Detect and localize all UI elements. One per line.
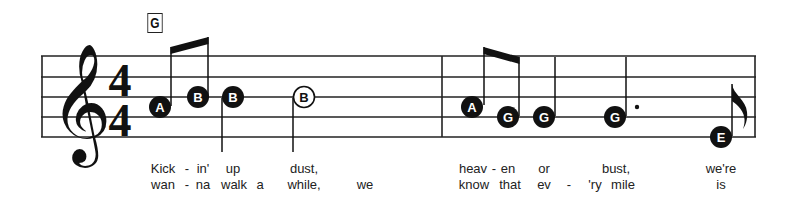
lyric-syllable: while, bbox=[287, 177, 320, 192]
lyric-syllable: that bbox=[499, 177, 521, 192]
lyric-syllable: mile bbox=[611, 177, 635, 192]
svg-text:G: G bbox=[610, 110, 620, 125]
lyric-syllable: we bbox=[357, 177, 374, 192]
treble-clef-icon: 𝄞 bbox=[50, 41, 111, 168]
lyric-syllable: na bbox=[196, 177, 210, 192]
svg-text:G: G bbox=[503, 110, 513, 125]
note-B-half: B bbox=[294, 87, 315, 108]
lyric-hyphen: - bbox=[185, 161, 189, 176]
staff bbox=[41, 56, 756, 137]
lyric-syllable: 'ry bbox=[588, 177, 601, 192]
lyric-syllable: is bbox=[716, 177, 725, 192]
lyric-syllable: bust, bbox=[602, 161, 630, 176]
lyric-syllable: Kick bbox=[151, 161, 176, 176]
note-E: E bbox=[710, 126, 732, 148]
lyric-syllable: we're bbox=[706, 161, 737, 176]
lyric-syllable: walk bbox=[221, 177, 247, 192]
lyric-syllable: en bbox=[501, 161, 515, 176]
note-G: G bbox=[533, 106, 555, 128]
note-A: A bbox=[149, 96, 171, 118]
lyric-syllable: dust, bbox=[290, 161, 318, 176]
note-A: A bbox=[461, 96, 483, 118]
dot bbox=[635, 105, 639, 109]
lyric-syllable: heav bbox=[459, 161, 487, 176]
time-signature-bottom: 4 bbox=[109, 95, 132, 146]
svg-text:A: A bbox=[467, 100, 477, 115]
chord-symbol: G bbox=[147, 13, 162, 33]
lyric-syllable: a bbox=[256, 177, 263, 192]
note-G: G bbox=[497, 106, 519, 128]
eighth-flag-icon bbox=[732, 84, 747, 129]
lyric-syllable: know bbox=[459, 177, 489, 192]
note-B: B bbox=[187, 86, 209, 108]
svg-text:G: G bbox=[539, 110, 549, 125]
lyric-hyphen: - bbox=[567, 177, 571, 192]
note-G: G bbox=[604, 106, 626, 128]
svg-text:B: B bbox=[193, 90, 202, 105]
beam-group-2 bbox=[484, 47, 520, 116]
note-B: B bbox=[222, 86, 244, 108]
svg-text:A: A bbox=[155, 100, 165, 115]
music-score: 𝄞 4 4 A B B B A G bbox=[0, 0, 790, 204]
lyric-syllable: in' bbox=[197, 161, 210, 176]
lyric-syllable: ev bbox=[537, 177, 551, 192]
svg-text:E: E bbox=[717, 130, 726, 145]
svg-text:B: B bbox=[228, 90, 237, 105]
svg-text:B: B bbox=[299, 90, 308, 105]
lyric-syllable: or bbox=[538, 161, 550, 176]
lyric-syllable: up bbox=[226, 161, 240, 176]
lyric-syllable: wan bbox=[151, 177, 175, 192]
lyric-hyphen: - bbox=[492, 161, 496, 176]
lyric-hyphen: - bbox=[185, 177, 189, 192]
